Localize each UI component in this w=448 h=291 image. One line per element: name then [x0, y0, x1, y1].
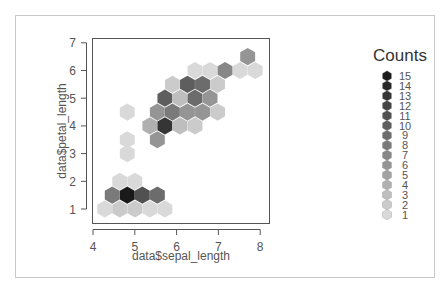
- y-tick-label: 7: [69, 36, 76, 50]
- x-tick-label: 4: [90, 240, 97, 254]
- x-axis-title: data$sepal_length: [132, 249, 230, 263]
- y-tick-label: 1: [69, 203, 76, 217]
- y-axis-title: data$petal_length: [55, 83, 69, 178]
- legend-title: Counts: [373, 46, 427, 65]
- y-tick-label: 2: [69, 175, 76, 189]
- y-tick-label: 6: [69, 64, 76, 78]
- hexbin-figure: 45678 1234567 data$sepal_length data$pet…: [0, 0, 448, 291]
- hexbin-chart: 45678 1234567 data$sepal_length data$pet…: [0, 0, 448, 291]
- y-tick-label: 4: [69, 119, 76, 133]
- figure-frame: [16, 16, 435, 278]
- x-tick-label: 8: [257, 240, 264, 254]
- y-tick-label: 3: [69, 147, 76, 161]
- legend-label: 1: [402, 209, 408, 221]
- y-tick-label: 5: [69, 92, 76, 106]
